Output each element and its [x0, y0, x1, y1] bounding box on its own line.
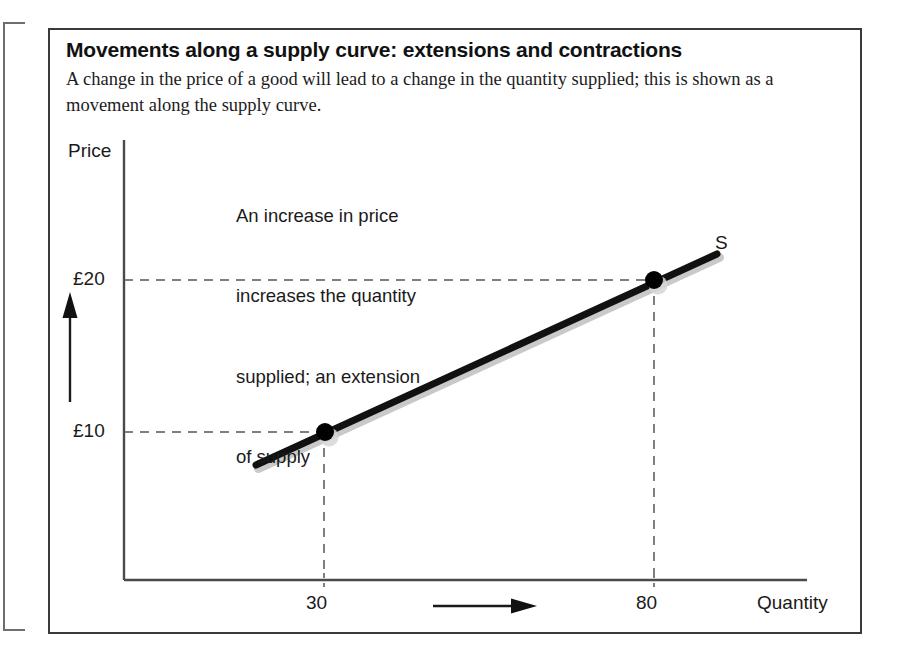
supply-curve-label: S	[715, 232, 728, 254]
quantity-direction-arrow-icon	[433, 599, 537, 614]
annotation-line-2: increases the quantity	[236, 283, 466, 310]
page-edge-artifact	[3, 22, 25, 631]
y-axis-title: Price	[68, 140, 111, 162]
annotation-line-4: of supply	[236, 444, 466, 471]
annotation-line-1: An increase in price	[236, 203, 466, 230]
extension-annotation: An increase in price increases the quant…	[236, 149, 466, 524]
figure-box: Movements along a supply curve: extensio…	[48, 28, 862, 634]
x-tick-label-80: 80	[636, 592, 657, 614]
y-tick-label-10: £10	[73, 420, 105, 442]
chart-plot-area: Price Quantity £20 £10 30 80 S An increa…	[50, 30, 864, 636]
annotation-line-3: supplied; an extension	[236, 364, 466, 391]
price-direction-arrow-icon	[63, 292, 78, 402]
y-tick-label-20: £20	[73, 268, 105, 290]
data-point-high	[645, 271, 663, 289]
x-axis-title: Quantity	[757, 592, 828, 614]
x-tick-label-30: 30	[306, 592, 327, 614]
